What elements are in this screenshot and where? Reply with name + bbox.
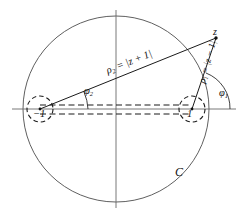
label-branch-minus-one: −1 bbox=[33, 109, 45, 120]
label-phi2-subscript: 2 bbox=[90, 90, 93, 97]
figure-canvas: ρ2 = |z + 1| ρ1 = |z − 1| φ1 φ2 z −1 1 C bbox=[0, 0, 241, 218]
label-curve-C: C bbox=[175, 166, 183, 178]
label-phi1: φ1 bbox=[219, 88, 228, 99]
label-point-z: z bbox=[213, 27, 217, 37]
label-phi2: φ2 bbox=[84, 86, 93, 97]
label-phi1-subscript: 1 bbox=[225, 92, 228, 99]
ray-rho2 bbox=[40, 38, 216, 109]
label-branch-plus-one: 1 bbox=[187, 109, 192, 120]
